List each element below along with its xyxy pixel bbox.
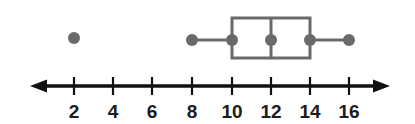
marker-q3 <box>304 34 316 46</box>
marker-median <box>265 34 277 46</box>
marker-q1 <box>226 34 238 46</box>
box-plot-series <box>68 18 355 58</box>
axis-arrow-left-icon <box>30 80 47 93</box>
box-plot-canvas: 2 4 6 8 10 12 14 16 <box>0 0 415 124</box>
axis-tick-label: 16 <box>338 101 359 122</box>
box-plot-figure: 2 4 6 8 10 12 14 16 <box>0 0 415 124</box>
axis-tick-label: 10 <box>221 101 242 122</box>
axis-tick-label: 6 <box>147 101 158 122</box>
number-line-axis: 2 4 6 8 10 12 14 16 <box>30 77 390 122</box>
axis-tick-label: 2 <box>69 101 80 122</box>
axis-tick-label: 4 <box>108 101 119 122</box>
marker-outlier <box>68 32 80 44</box>
axis-tick-label: 8 <box>187 101 198 122</box>
axis-tick-label: 14 <box>299 101 321 122</box>
axis-tick-label: 12 <box>260 101 281 122</box>
axis-tick-labels: 2 4 6 8 10 12 14 16 <box>69 101 360 122</box>
marker-minimum <box>186 34 198 46</box>
marker-maximum <box>343 34 355 46</box>
axis-arrow-right-icon <box>373 80 390 93</box>
